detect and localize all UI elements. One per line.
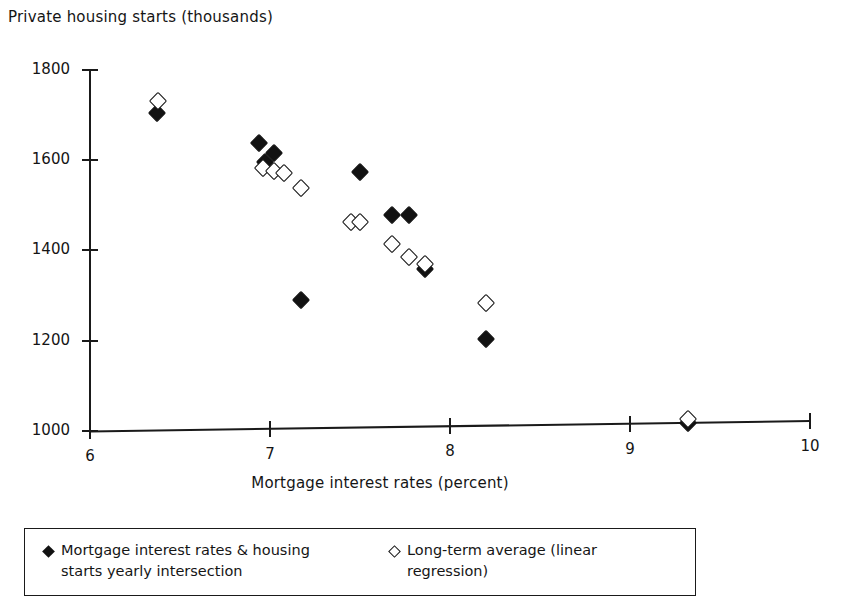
legend-marker-open-diamond-icon (385, 540, 407, 560)
y-tick-label-1800: 1800 (10, 60, 70, 78)
legend-marker-filled-diamond-icon (39, 540, 61, 560)
x-tick-label-7: 7 (250, 445, 290, 463)
y-tick-label-1400: 1400 (10, 240, 70, 258)
y-tick-label-1600: 1600 (10, 150, 70, 168)
legend-label-observations-line1: Mortgage interest rates & housing (61, 540, 310, 561)
legend-entry-observations: Mortgage interest rates & housing starts… (39, 540, 369, 582)
x-tick-label-8: 8 (430, 442, 470, 460)
legend-label-regression-line2: regression) (407, 561, 597, 582)
x-tick-label-10: 10 (790, 437, 830, 455)
chart-page: Private housing starts (thousands) 1800 … (0, 0, 858, 616)
legend-label-observations: Mortgage interest rates & housing starts… (61, 540, 310, 582)
y-tick-label-1200: 1200 (10, 331, 70, 349)
legend-label-regression: Long-term average (linear regression) (407, 540, 597, 582)
legend-label-observations-line2: starts yearly intersection (61, 561, 310, 582)
legend-label-regression-line1: Long-term average (linear (407, 540, 597, 561)
y-tick-label-1000: 1000 (10, 421, 70, 439)
x-tick-label-9: 9 (610, 440, 650, 458)
legend-box: Mortgage interest rates & housing starts… (24, 528, 696, 596)
x-tick-label-6: 6 (70, 447, 110, 465)
plot-area (0, 0, 858, 500)
x-axis-title: Mortgage interest rates (percent) (0, 474, 760, 492)
legend-entry-regression: Long-term average (linear regression) (385, 540, 685, 582)
